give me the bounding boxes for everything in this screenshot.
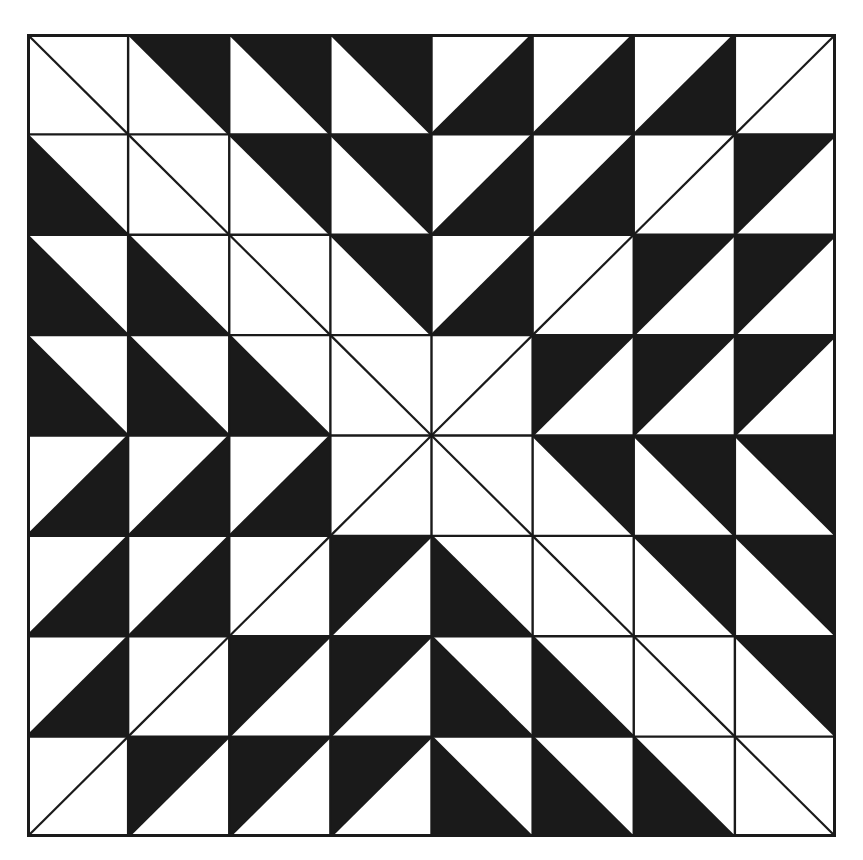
quilt-block: Half-square triangle quilt block (8x8) <box>27 34 836 837</box>
quilt-grid <box>27 34 836 837</box>
